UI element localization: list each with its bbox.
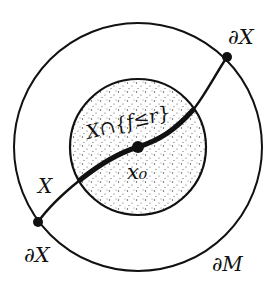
center-point-x0 [132,141,144,153]
boundary-point-bottom-left [33,217,43,227]
curve-x-outer-top [193,57,227,110]
label-boundary-x-top: ∂X [228,25,255,49]
boundary-point-top-right [222,52,232,62]
label-curve-x: X [36,174,53,198]
diagram-canvas: ∂X ∂X ∂M X X∩{f≤r} x₀ [0,0,276,291]
label-boundary-x-bottom: ∂X [24,243,51,267]
label-center-x0: x₀ [127,160,148,184]
label-boundary-m: ∂M [212,252,243,276]
